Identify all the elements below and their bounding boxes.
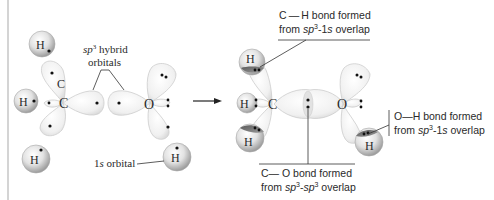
lone-pair-dot	[161, 74, 164, 77]
svg-text:H: H	[365, 139, 374, 153]
carbon-atom-label: C	[59, 96, 68, 111]
reaction-arrow-icon	[193, 98, 222, 104]
svg-text:sp3 hybrid: sp3 hybrid	[83, 43, 128, 55]
hydrogen-bottom-left: H	[22, 145, 50, 173]
svg-text:1s orbital: 1s orbital	[94, 157, 135, 169]
1s-orbital-label: 1s orbital	[94, 157, 164, 169]
orbital-diagram: C C O H H	[0, 0, 494, 200]
svg-text:from sp3-1s overlap: from sp3-1s overlap	[279, 23, 370, 35]
lone-pair-dot	[360, 76, 363, 79]
electron-dot	[50, 71, 53, 74]
bonding-pair-dot	[306, 98, 309, 101]
carbon-lobe-label: C	[57, 77, 65, 91]
lone-pair-dot	[360, 106, 363, 109]
svg-text:C— O bond formed: C— O bond formed	[261, 167, 352, 179]
hydrogen-left: H	[14, 89, 38, 113]
ch-bond-callout: C — H bond formed from sp3-1s overlap	[260, 9, 371, 67]
svg-text:H: H	[244, 135, 253, 149]
lone-pair-dot	[356, 74, 359, 77]
svg-text:H: H	[19, 95, 28, 109]
oh-bond-callout: O—H bond formed from sp3-1s overlap	[368, 110, 485, 136]
hydrogen-oxygen-bonded: H	[355, 128, 383, 156]
carbon-atom-label-bonded: C	[268, 97, 277, 112]
electron-dot	[48, 124, 51, 127]
lone-pair-dot	[165, 76, 168, 79]
electron-dot	[117, 101, 120, 104]
hydrogen-left-bonded: H	[237, 93, 257, 113]
svg-text:O—H bond formed: O—H bond formed	[394, 110, 482, 122]
svg-text:H: H	[246, 52, 255, 66]
right-molecule: C O H H	[236, 9, 485, 193]
electron-dot	[48, 102, 51, 105]
svg-text:from sp3-1s overlap: from sp3-1s overlap	[394, 124, 485, 136]
left-molecule: C C O H H	[14, 31, 191, 173]
svg-text:from sp3-sp3 overlap: from sp3-sp3 overlap	[261, 181, 356, 193]
oxygen-atom-label-bonded: O	[337, 97, 347, 112]
svg-text:C — H bond formed: C — H bond formed	[279, 9, 371, 21]
bonding-pair-dot	[306, 105, 309, 108]
svg-text:H: H	[36, 38, 45, 52]
svg-text:H: H	[171, 151, 180, 165]
sp3-hybrid-orbitals-label: sp3 hybrid orbitals	[83, 43, 128, 90]
hydrogen-bottom-right: H	[163, 143, 191, 171]
lone-pair-dot	[360, 100, 363, 103]
sp3-leader-lines	[93, 70, 124, 90]
lone-pair-dot	[167, 99, 170, 102]
1s-leader-line	[137, 161, 164, 164]
hydrogen-top: H	[29, 31, 55, 57]
svg-text:orbitals: orbitals	[88, 56, 121, 68]
hydrogen-bottom-bonded: H	[236, 124, 264, 152]
page-edge-line	[7, 0, 9, 200]
oxygen-sp3-lobes	[108, 63, 176, 139]
lone-pair-dot	[167, 105, 170, 108]
hydrogen-top-bonded: H	[239, 49, 265, 75]
electron-dot	[95, 101, 98, 104]
oxygen-atom-label: O	[144, 97, 154, 112]
diagram-canvas: C C O H H	[0, 0, 494, 200]
electron-dot	[166, 125, 169, 128]
svg-text:H: H	[30, 153, 39, 167]
svg-text:H: H	[240, 97, 249, 111]
